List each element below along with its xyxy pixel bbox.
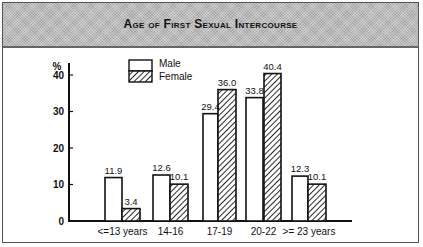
category-label: 14-16: [158, 226, 184, 237]
legend-swatch-female: [129, 71, 152, 82]
value-label-male: 33.8: [245, 85, 264, 96]
y-tick-label: 40: [53, 70, 65, 81]
bar-female: [218, 90, 236, 221]
y-tick-label: 0: [58, 216, 64, 227]
bar-male: [203, 114, 218, 221]
value-label-female: 10.1: [308, 171, 327, 182]
value-label-female: 40.4: [263, 61, 282, 72]
bar-chart: %010203040 11.93.4<=13 years12.610.114-1…: [0, 0, 423, 247]
bar-male: [105, 178, 122, 221]
value-label-female: 3.4: [124, 196, 137, 207]
y-tick-label: 20: [53, 143, 65, 154]
value-label-female: 10.1: [170, 171, 189, 182]
value-label-male: 11.9: [105, 165, 123, 176]
bar-female: [122, 209, 140, 221]
legend-swatch-male: [129, 60, 152, 71]
legend-label-male: Male: [159, 58, 181, 69]
bar-female: [308, 184, 326, 221]
bar-male: [246, 98, 263, 221]
legend-label-female: Female: [159, 71, 193, 82]
category-label: 17-19: [207, 226, 233, 237]
bar-female: [264, 74, 281, 221]
bar-male: [153, 175, 170, 221]
y-tick-label: 30: [53, 106, 65, 117]
value-label-male: 12.3: [291, 163, 310, 174]
bar-female: [170, 184, 188, 221]
value-label-female: 36.0: [218, 77, 237, 88]
y-tick-label: 10: [53, 179, 65, 190]
category-label: 20-22: [251, 226, 277, 237]
bars: 11.93.4<=13 years12.610.114-1629.436.017…: [97, 61, 335, 237]
category-label: >= 23 years: [283, 226, 336, 237]
bar-male: [292, 176, 308, 221]
value-label-male: 12.6: [152, 162, 171, 173]
category-label: <=13 years: [97, 226, 147, 237]
legend: MaleFemale: [129, 58, 193, 82]
value-label-male: 29.4: [201, 101, 220, 112]
